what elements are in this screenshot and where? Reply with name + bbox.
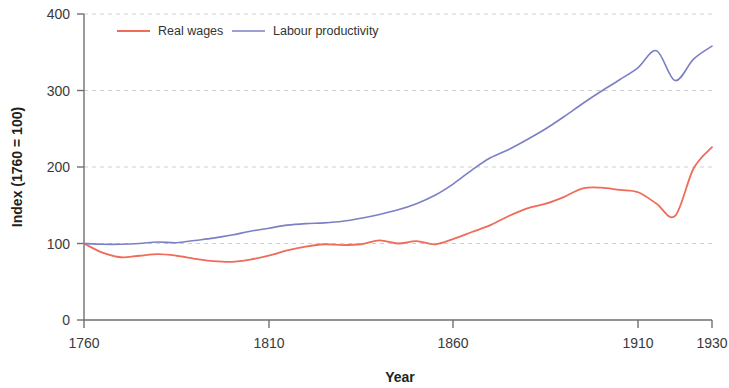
y-tick-labels: 400 300 200 100 0 [47,6,71,328]
y-axis-title: Index (1760 = 100) [9,107,25,227]
data-series [84,46,712,262]
x-axis-title: Year [385,369,415,385]
y-tick-label-100: 100 [47,236,71,252]
x-tick-label-1910: 1910 [622,335,653,351]
y-tick-label-0: 0 [62,312,70,328]
legend-label-labour-productivity: Labour productivity [273,24,379,38]
series-line-labour-productivity [84,46,712,244]
legend: Real wages Labour productivity [117,24,379,38]
axes [77,14,712,328]
x-tick-label-1930: 1930 [696,335,727,351]
y-tick-label-300: 300 [47,83,71,99]
y-tick-label-200: 200 [47,159,71,175]
x-tick-labels: 1760 1810 1860 1910 1930 [68,335,727,351]
chart-figure: 400 300 200 100 0 1760 1810 1860 1910 19… [0,0,729,388]
legend-label-real-wages: Real wages [158,24,223,38]
x-tick-label-1860: 1860 [437,335,468,351]
y-tick-label-400: 400 [47,6,71,22]
line-chart: 400 300 200 100 0 1760 1810 1860 1910 19… [0,0,729,388]
x-tick-label-1810: 1810 [253,335,284,351]
x-tick-label-1760: 1760 [68,335,99,351]
series-line-real-wages [84,147,712,262]
